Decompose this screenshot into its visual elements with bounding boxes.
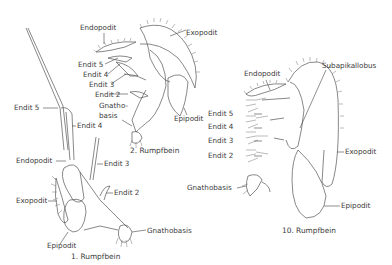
label-fig1-exopodit: Exopodit — [16, 197, 47, 204]
label-fig3-endit2: Endit 2 — [208, 152, 233, 159]
label-fig2-exopodit: Exopodit — [186, 29, 217, 36]
label-fig2-endit3: Endit 3 — [89, 81, 114, 88]
caption-fig2: 2. Rumpfbein — [130, 147, 179, 154]
label-fig3-subapikallobus: Subapikallobus — [322, 62, 376, 69]
caption-fig1: 1. Rumpfbein — [71, 253, 120, 260]
label-fig1-gnathobasis: Gnathobasis — [147, 227, 192, 234]
label-fig1-endopodit: Endopodit — [16, 157, 52, 164]
label-fig3-endit4: Endit 4 — [208, 123, 233, 130]
label-fig1-endit4: Endit 4 — [77, 122, 102, 129]
label-fig1-epipodit: Epipodit — [47, 242, 76, 249]
label-fig3-endit5: Endit 5 — [208, 110, 233, 117]
label-fig3-epipodit: Epipodit — [341, 202, 370, 209]
label-fig2-epipodit: Epipodit — [174, 115, 203, 122]
label-fig2-endit2: Endit 2 — [95, 91, 120, 98]
diagram-canvas: Endit 5 Endit 4 Endopodit Endit 3 Exopod… — [0, 0, 392, 265]
label-fig3-gnathobasis: Gnathobasis — [187, 184, 232, 191]
label-fig2-endit4: Endit 4 — [83, 71, 108, 78]
label-fig2-endopodit: Endopodit — [80, 24, 116, 31]
leg-10-drawing — [246, 62, 338, 218]
label-fig2-gnathobasis: Gnatho- basis — [99, 101, 128, 120]
label-fig3-exopodit: Exopodit — [345, 148, 376, 155]
label-fig1-endit5: Endit 5 — [14, 104, 39, 111]
label-fig3-endit3: Endit 3 — [208, 137, 233, 144]
label-fig3-endopodit: Endopodit — [244, 70, 280, 77]
label-fig1-endit2: Endit 2 — [114, 189, 139, 196]
caption-fig3: 10. Rumpfbein — [282, 227, 336, 234]
label-fig1-endit3: Endit 3 — [104, 160, 129, 167]
label-fig2-endit5: Endit 5 — [78, 61, 103, 68]
